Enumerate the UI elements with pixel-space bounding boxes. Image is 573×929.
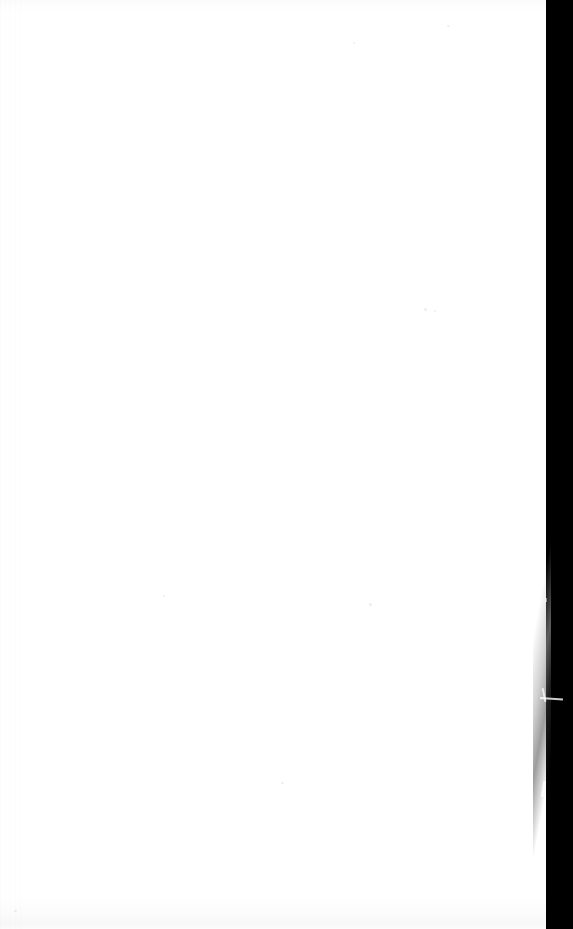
scanned-page-canvas bbox=[0, 0, 573, 929]
scanned-page-sheet bbox=[0, 0, 546, 929]
page-visible-text bbox=[0, 0, 1, 1]
page-content-area bbox=[0, 0, 546, 929]
